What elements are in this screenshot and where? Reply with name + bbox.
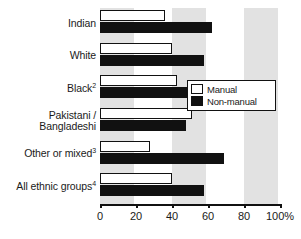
- category-label: Indian: [0, 18, 96, 30]
- x-tick-label: 20: [130, 210, 142, 222]
- x-tick-mark: [136, 204, 138, 208]
- bar-manual: [100, 141, 150, 152]
- footnote-marker: 4: [92, 179, 96, 186]
- x-tick-mark: [172, 204, 174, 208]
- category-label: Other or mixed3: [0, 148, 96, 160]
- x-tick-label: 80: [238, 210, 250, 222]
- bar-non-manual: [100, 55, 204, 66]
- bar-chart: IndianWhiteBlack2Pakistani /BangladeshiO…: [0, 0, 301, 239]
- x-tick-label: 100%: [266, 210, 294, 222]
- bar-manual: [100, 10, 165, 21]
- category-label: White: [0, 50, 96, 62]
- x-tick-mark: [244, 204, 246, 208]
- x-axis-line: [100, 204, 281, 206]
- legend-swatch-manual: [191, 84, 203, 94]
- bar-non-manual: [100, 120, 186, 131]
- category-axis-labels: IndianWhiteBlack2Pakistani /BangladeshiO…: [0, 8, 96, 204]
- x-tick-label: 40: [166, 210, 178, 222]
- bar-group: [100, 43, 280, 76]
- legend-item: Manual: [191, 83, 272, 95]
- bar-non-manual: [100, 153, 224, 164]
- x-tick-label: 60: [202, 210, 214, 222]
- footnote-marker: 2: [92, 81, 96, 88]
- legend-swatch-non-manual: [191, 96, 203, 106]
- category-label: Black2: [0, 83, 96, 95]
- legend-label: Non-manual: [207, 96, 257, 107]
- category-label: Pakistani /Bangladeshi: [0, 110, 96, 133]
- footnote-marker: 3: [92, 147, 96, 154]
- bar-non-manual: [100, 185, 204, 196]
- bar-manual: [100, 173, 172, 184]
- bar-group: [100, 173, 280, 206]
- x-tick-mark: [280, 204, 282, 208]
- bar-manual: [100, 75, 177, 86]
- legend-label: Manual: [207, 84, 237, 95]
- bar-manual: [100, 43, 172, 54]
- bar-non-manual: [100, 87, 195, 98]
- bar-manual: [100, 108, 192, 119]
- legend-item: Non-manual: [191, 95, 272, 107]
- x-tick-mark: [100, 204, 102, 208]
- legend: ManualNon-manual: [187, 80, 276, 111]
- bar-non-manual: [100, 22, 212, 33]
- x-tick-label: 0: [97, 210, 103, 222]
- x-tick-mark: [208, 204, 210, 208]
- category-label: All ethnic groups4: [0, 181, 96, 193]
- bar-group: [100, 141, 280, 174]
- bar-group: [100, 108, 280, 141]
- bar-group: [100, 10, 280, 43]
